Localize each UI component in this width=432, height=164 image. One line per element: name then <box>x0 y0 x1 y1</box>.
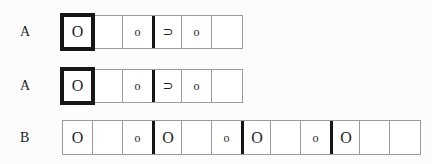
diagram-canvas: AOo⊃oAOo⊃oBOoOoOoO <box>0 0 432 164</box>
row-label: A <box>20 78 31 94</box>
box-cell <box>93 16 123 48</box>
cell-symbol: o <box>194 26 200 38</box>
row-label: A <box>20 24 31 40</box>
cell-symbol: o <box>135 80 141 92</box>
cell-symbol: o <box>224 132 230 144</box>
box-cell <box>93 70 123 102</box>
box-cell: o <box>182 16 212 48</box>
box-cell <box>212 16 242 48</box>
box-cell: o <box>212 121 242 154</box>
box-cell <box>212 70 242 102</box>
cell-strip: OoOoOoO <box>62 120 421 155</box>
cell-symbol: O <box>251 130 263 146</box>
cell-strip: Oo⊃o <box>62 15 243 49</box>
box-cell <box>390 121 420 154</box>
cell-strip: Oo⊃o <box>62 69 243 103</box>
box-cell: O <box>330 121 360 154</box>
box-cell: O <box>152 121 182 154</box>
cell-symbol: ⊃ <box>163 79 174 92</box>
cell-symbol: O <box>340 130 352 146</box>
box-cell <box>360 121 390 154</box>
cell-symbol: ⊃ <box>163 25 174 38</box>
box-cell <box>182 121 212 154</box>
row-label: B <box>20 130 30 146</box>
diagram-row: AOo⊃o <box>0 15 432 49</box>
cell-symbol: o <box>194 80 200 92</box>
highlighted-box-cell: O <box>63 16 93 48</box>
box-cell: O <box>63 121 93 154</box>
box-cell: o <box>301 121 331 154</box>
highlighted-box-cell: O <box>63 70 93 102</box>
box-cell <box>271 121 301 154</box>
cell-symbol: O <box>72 24 84 40</box>
box-cell <box>93 121 123 154</box>
cell-symbol: o <box>135 26 141 38</box>
box-cell: o <box>123 70 153 102</box>
box-cell: o <box>123 16 153 48</box>
box-cell: o <box>182 70 212 102</box>
box-cell: ⊃ <box>152 16 182 48</box>
cell-symbol: o <box>135 132 141 144</box>
cell-symbol: O <box>72 78 84 94</box>
box-cell: o <box>123 121 153 154</box>
box-cell: ⊃ <box>152 70 182 102</box>
cell-symbol: o <box>313 132 319 144</box>
cell-symbol: O <box>72 130 84 146</box>
box-cell: O <box>241 121 271 154</box>
cell-symbol: O <box>162 130 174 146</box>
diagram-row: BOoOoOoO <box>0 120 432 155</box>
diagram-row: AOo⊃o <box>0 69 432 103</box>
